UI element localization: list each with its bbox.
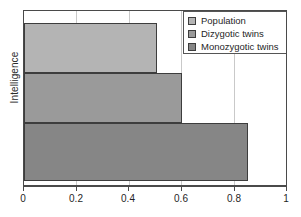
- legend-item-population[interactable]: Population: [188, 14, 286, 27]
- bar-monozygotic-twins[interactable]: [24, 123, 248, 181]
- x-tick-label-0.2: 0.2: [69, 193, 83, 204]
- legend-swatch-icon-monozygotic: [188, 43, 196, 51]
- legend-label-dizygotic-twins: Dizygotic twins: [201, 28, 264, 40]
- legend-swatch-icon-population: [188, 17, 196, 25]
- bar-dizygotic-twins[interactable]: [24, 73, 182, 123]
- bar-chart: Intelligence Population Dizygotic twins …: [0, 0, 301, 217]
- x-tick-mark-0.2: [76, 186, 77, 191]
- legend-label-population: Population: [201, 15, 246, 27]
- bar-population[interactable]: [24, 23, 157, 73]
- x-tick-mark-0: [23, 186, 24, 191]
- x-tick-mark-1: [286, 186, 287, 191]
- legend-item-dizygotic-twins[interactable]: Dizygotic twins: [188, 27, 286, 40]
- x-tick-label-0.6: 0.6: [174, 193, 188, 204]
- x-tick-mark-0.4: [128, 186, 129, 191]
- x-tick-label-0: 0: [20, 193, 26, 204]
- legend-swatch-icon-dizygotic: [188, 30, 196, 38]
- y-axis-title: Intelligence: [9, 33, 20, 123]
- x-tick-mark-0.8: [234, 186, 235, 191]
- legend-item-monozygotic-twins[interactable]: Monozygotic twins: [188, 40, 286, 53]
- x-axis-line: [23, 186, 287, 187]
- x-tick-label-0.8: 0.8: [227, 193, 241, 204]
- legend-label-monozygotic-twins: Monozygotic twins: [201, 41, 279, 53]
- x-tick-mark-0.6: [181, 186, 182, 191]
- legend: Population Dizygotic twins Monozygotic t…: [183, 11, 287, 54]
- x-tick-label-1: 1: [283, 193, 289, 204]
- plot-area: Population Dizygotic twins Monozygotic t…: [23, 10, 287, 186]
- x-tick-label-0.4: 0.4: [121, 193, 135, 204]
